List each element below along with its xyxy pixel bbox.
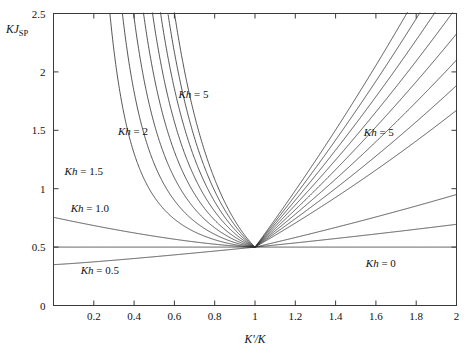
y-tick-label: 1 xyxy=(40,183,46,195)
curve-annotations: Kh = 5Kh = 2Kh = 1.5Kh = 1.0Kh = 0.5Kh =… xyxy=(64,88,397,276)
annotation-label: Kh = 5 xyxy=(177,88,209,100)
curve-3 xyxy=(144,13,457,247)
y-axis-ticks xyxy=(54,14,457,306)
curve-2_5 xyxy=(134,14,457,247)
x-axis-title: K'/K xyxy=(244,333,267,345)
chart-canvas: 0.20.40.60.811.21.41.61.82 00.511.522.5 … xyxy=(0,0,473,363)
x-tick-label: 1 xyxy=(252,310,258,322)
x-tick-label: 0.6 xyxy=(168,310,182,322)
chart-figure: 0.20.40.60.811.21.41.61.82 00.511.522.5 … xyxy=(0,0,473,363)
annotation-label: Kh = 1.5 xyxy=(64,165,104,177)
curve-0_5 xyxy=(54,224,457,264)
x-tick-label: 0.4 xyxy=(127,310,141,322)
y-tick-label: 0.5 xyxy=(32,241,46,253)
annotation-label: Kh = 5 xyxy=(363,126,395,138)
curve-group xyxy=(54,12,457,264)
x-tick-label: 1.8 xyxy=(409,310,423,322)
x-tick-label: 2 xyxy=(454,310,460,322)
plot-frame xyxy=(54,14,457,306)
y-tick-label: 0 xyxy=(40,300,46,312)
x-tick-label: 0.2 xyxy=(87,310,101,322)
y-tick-label: 2 xyxy=(40,66,46,78)
annotation-label: Kh = 1.0 xyxy=(70,202,110,214)
y-axis-title: KJSP xyxy=(5,23,29,38)
y-tick-label: 1.5 xyxy=(32,124,46,136)
annotation-label: Kh = 2 xyxy=(117,125,148,137)
y-tick-labels: 00.511.522.5 xyxy=(32,8,46,312)
curve-2 xyxy=(122,14,456,247)
x-tick-label: 0.8 xyxy=(208,310,222,322)
x-tick-label: 1.4 xyxy=(329,310,343,322)
x-axis-ticks xyxy=(54,14,457,306)
annotation-label: Kh = 0.5 xyxy=(80,264,120,276)
curve-1_5 xyxy=(110,14,457,247)
curve-1 xyxy=(54,195,457,248)
x-tick-label: 1.2 xyxy=(288,310,302,322)
x-tick-label: 1.6 xyxy=(369,310,383,322)
x-tick-labels: 0.20.40.60.811.21.41.61.82 xyxy=(87,310,459,322)
annotation-label: Kh = 0 xyxy=(365,257,397,269)
y-tick-label: 2.5 xyxy=(32,8,46,20)
